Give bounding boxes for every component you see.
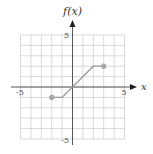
endpoint-dot	[101, 64, 106, 69]
y-tick-max: 5	[64, 31, 69, 40]
y-tick-min: -5	[61, 136, 69, 145]
y-axis-title: f(x)	[62, 5, 82, 18]
function-graph: f(x) x -5 5 5 -5	[0, 0, 153, 154]
plot-area	[49, 64, 106, 100]
x-tick-max: 5	[121, 88, 126, 97]
function-line	[52, 66, 104, 97]
x-tick-min: -5	[16, 88, 24, 97]
y-axis-arrow-icon	[70, 20, 76, 27]
x-axis-title: x	[141, 81, 147, 92]
x-axis-arrow-icon	[130, 84, 137, 90]
endpoint-dot	[49, 95, 54, 100]
axes	[11, 20, 137, 145]
